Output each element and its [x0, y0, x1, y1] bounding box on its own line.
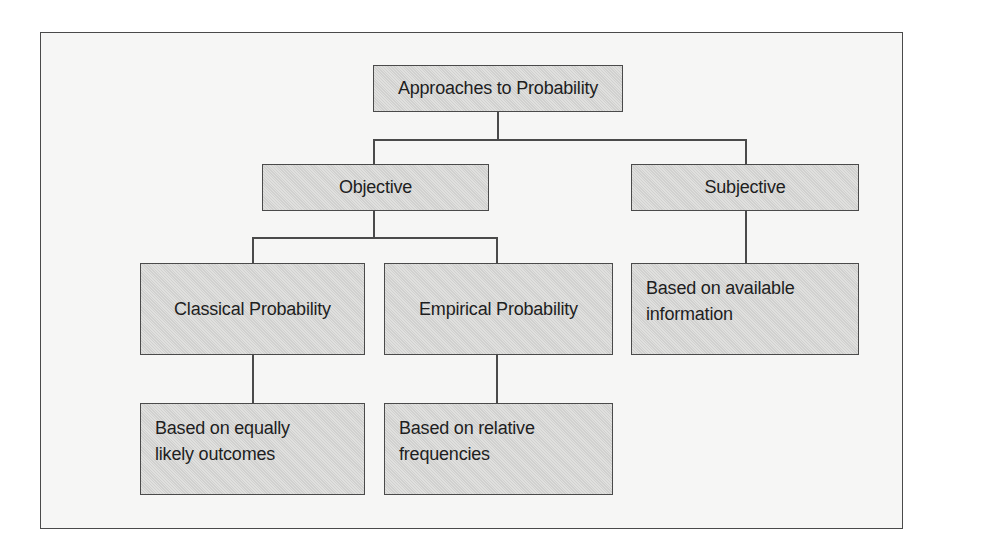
- node-based-on-available-information: Based on available information: [631, 263, 859, 355]
- node-based-on-equally-likely-outcomes: Based on equally likely outcomes: [140, 403, 365, 495]
- connector-classical-down: [252, 355, 254, 403]
- node-label-line-1: Based on relative: [399, 415, 598, 441]
- connector-to-objective: [373, 139, 375, 164]
- node-subjective: Subjective: [631, 164, 859, 211]
- node-label: Objective: [339, 177, 412, 198]
- node-label-line-2: information: [646, 301, 844, 327]
- connector-to-empirical: [496, 237, 498, 263]
- node-label-line-2: likely outcomes: [155, 441, 350, 467]
- node-based-on-relative-frequencies: Based on relative frequencies: [384, 403, 613, 495]
- node-objective: Objective: [262, 164, 489, 211]
- connector-to-subjective: [745, 139, 747, 164]
- connector-root-branch: [373, 139, 746, 141]
- node-empirical-probability: Empirical Probability: [384, 263, 613, 355]
- node-label: Approaches to Probability: [398, 78, 598, 99]
- connector-empirical-down: [496, 355, 498, 403]
- connector-root-down: [497, 112, 499, 140]
- node-label: Subjective: [704, 177, 785, 198]
- node-label-line-1: Based on equally: [155, 415, 350, 441]
- node-label-line-1: Based on available: [646, 275, 844, 301]
- node-label: Classical Probability: [174, 299, 331, 320]
- node-label: Empirical Probability: [419, 299, 578, 320]
- connector-subjective-down: [745, 211, 747, 263]
- connector-objective-down: [373, 211, 375, 238]
- node-label-line-2: frequencies: [399, 441, 598, 467]
- node-classical-probability: Classical Probability: [140, 263, 365, 355]
- node-approaches-to-probability: Approaches to Probability: [373, 65, 623, 112]
- connector-objective-branch: [252, 237, 497, 239]
- connector-to-classical: [252, 237, 254, 263]
